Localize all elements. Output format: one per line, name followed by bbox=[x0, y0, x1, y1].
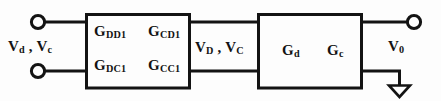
stage-1-label-gdd1: GDD1 bbox=[94, 24, 126, 39]
output-terminal-icon bbox=[407, 15, 420, 28]
mid-v2: V bbox=[225, 39, 236, 55]
gcd1-base: G bbox=[148, 23, 160, 39]
gdc1-sub: DC1 bbox=[106, 63, 126, 74]
gd-base: G bbox=[282, 42, 294, 58]
circuit-diagram: Vd , Vc GDD1 GCD1 GDC1 GCC1 VD , VC Gd G… bbox=[0, 0, 441, 101]
mid-v1: V bbox=[195, 39, 206, 55]
output-port-label: V0 bbox=[388, 39, 404, 54]
gdc1-base: G bbox=[94, 57, 106, 73]
input-v2: V bbox=[37, 38, 48, 54]
stage-2-label-gc: Gc bbox=[327, 43, 344, 58]
input-terminal-bottom-icon bbox=[31, 64, 44, 77]
stage-2-block bbox=[259, 15, 362, 89]
mid-sub1: D bbox=[206, 45, 214, 56]
input-v1: V bbox=[8, 38, 19, 54]
mid-sep: , bbox=[214, 39, 226, 55]
gd-sub: d bbox=[294, 48, 300, 59]
gdd1-sub: DD1 bbox=[106, 29, 126, 40]
stage-1-label-gcd1: GCD1 bbox=[148, 24, 180, 39]
gcd1-sub: CD1 bbox=[160, 29, 180, 40]
input-sub2: c bbox=[48, 44, 53, 55]
input-terminal-top-icon bbox=[31, 15, 44, 28]
interstage-port-label: VD , VC bbox=[195, 40, 244, 55]
gdd1-base: G bbox=[94, 23, 106, 39]
ground-icon bbox=[389, 86, 410, 98]
out-sub: 0 bbox=[399, 44, 404, 55]
stage-1-label-gdc1: GDC1 bbox=[94, 58, 126, 73]
input-sep: , bbox=[25, 38, 37, 54]
mid-sub2: C bbox=[236, 45, 244, 56]
gc-base: G bbox=[327, 42, 339, 58]
input-port-label: Vd , Vc bbox=[8, 39, 52, 54]
gcc1-base: G bbox=[148, 57, 160, 73]
stage-1-label-gcc1: GCC1 bbox=[148, 58, 180, 73]
gcc1-sub: CC1 bbox=[160, 63, 180, 74]
stage-2-label-gd: Gd bbox=[282, 43, 300, 58]
out-v: V bbox=[388, 38, 399, 54]
gc-sub: c bbox=[339, 48, 344, 59]
input-sub1: d bbox=[19, 44, 25, 55]
